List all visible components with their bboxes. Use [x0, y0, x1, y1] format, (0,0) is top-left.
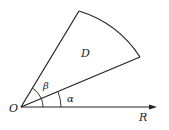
beta-base-arc [41, 99, 43, 108]
beta-label: β [42, 80, 49, 91]
polar-sector-diagram: O D R α β [0, 0, 169, 130]
axis-arrow-icon [149, 105, 157, 110]
axis-label: R [138, 111, 147, 124]
beta-angle-arc [32, 88, 41, 98]
alpha-angle-arc [58, 92, 61, 108]
region-label: D [80, 47, 90, 60]
ray-alpha [21, 57, 140, 107]
origin-label: O [9, 102, 18, 115]
alpha-label: α [67, 93, 74, 104]
